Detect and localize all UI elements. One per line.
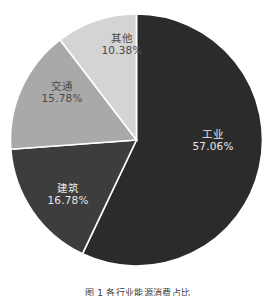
pie-slices <box>10 14 262 266</box>
figure-caption: 图 1 各行业能源消费占比 <box>0 286 275 296</box>
